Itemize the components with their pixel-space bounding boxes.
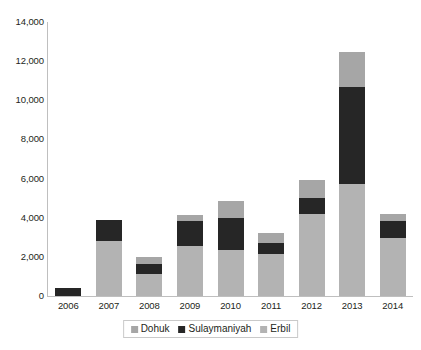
bar-group-2014[interactable] bbox=[380, 214, 406, 296]
bar-segment-sulaymaniyah-2014[interactable] bbox=[380, 221, 406, 239]
stacked-bar-chart: 02,0004,0006,0008,00010,00012,00014,000 … bbox=[0, 0, 421, 350]
legend-label: Sulaymaniyah bbox=[189, 323, 252, 335]
legend-swatch-icon bbox=[260, 326, 267, 333]
bar-segment-sulaymaniyah-2013[interactable] bbox=[339, 87, 365, 185]
y-axis-tick-label: 0 bbox=[0, 291, 44, 301]
chart-legend: DohukSulaymaniyahErbil bbox=[123, 320, 299, 338]
bar-segment-sulaymaniyah-2011[interactable] bbox=[258, 243, 284, 254]
x-axis-tick-label: 2008 bbox=[126, 299, 172, 312]
legend-item-erbil[interactable]: Erbil bbox=[260, 323, 290, 335]
legend-label: Dohuk bbox=[141, 323, 170, 335]
bar-segment-sulaymaniyah-2010[interactable] bbox=[218, 218, 244, 250]
bar-segment-dohuk-2013[interactable] bbox=[339, 52, 365, 86]
bar-segment-dohuk-2008[interactable] bbox=[136, 257, 162, 264]
x-axis-tick-label: 2010 bbox=[208, 299, 254, 312]
x-axis-tick-label: 2006 bbox=[45, 299, 91, 312]
y-axis-tick-label: 8,000 bbox=[0, 134, 44, 144]
bar-segment-dohuk-2014[interactable] bbox=[380, 214, 406, 221]
y-axis-tick-label: 10,000 bbox=[0, 95, 44, 105]
bar-group-2008[interactable] bbox=[136, 257, 162, 296]
legend-item-sulaymaniyah[interactable]: Sulaymaniyah bbox=[179, 323, 252, 335]
bar-segment-erbil-2008[interactable] bbox=[136, 274, 162, 297]
x-axis-tick-label: 2012 bbox=[289, 299, 335, 312]
bar-group-2012[interactable] bbox=[299, 180, 325, 296]
x-axis-tick-label: 2013 bbox=[329, 299, 375, 312]
bar-segment-erbil-2011[interactable] bbox=[258, 254, 284, 296]
x-axis-tick-label: 2014 bbox=[370, 299, 416, 312]
y-axis-tick-labels: 02,0004,0006,0008,00010,00012,00014,000 bbox=[0, 0, 44, 350]
bar-segment-dohuk-2011[interactable] bbox=[258, 233, 284, 243]
plot-area bbox=[48, 22, 413, 296]
x-axis-tick-label: 2007 bbox=[86, 299, 132, 312]
x-axis-line bbox=[47, 296, 413, 297]
bar-segment-erbil-2007[interactable] bbox=[96, 241, 122, 296]
legend-item-dohuk[interactable]: Dohuk bbox=[131, 323, 170, 335]
y-axis-tick-label: 12,000 bbox=[0, 56, 44, 66]
y-axis-tick-label: 14,000 bbox=[0, 17, 44, 27]
legend-label: Erbil bbox=[270, 323, 290, 335]
y-axis-tick-label: 6,000 bbox=[0, 174, 44, 184]
x-axis-tick-labels: 200620072008200920102011201220132014 bbox=[48, 299, 413, 315]
x-axis-tick-label: 2009 bbox=[167, 299, 213, 312]
bar-segment-sulaymaniyah-2008[interactable] bbox=[136, 264, 162, 274]
x-axis-tick-label: 2011 bbox=[248, 299, 294, 312]
bar-segment-sulaymaniyah-2012[interactable] bbox=[299, 198, 325, 214]
bar-group-2007[interactable] bbox=[96, 220, 122, 296]
bar-segment-erbil-2013[interactable] bbox=[339, 184, 365, 296]
bar-segment-erbil-2012[interactable] bbox=[299, 214, 325, 296]
bar-segment-erbil-2009[interactable] bbox=[177, 246, 203, 296]
bar-group-2006[interactable] bbox=[55, 288, 81, 296]
y-axis-tick-label: 2,000 bbox=[0, 252, 44, 262]
y-axis-tick-label: 4,000 bbox=[0, 213, 44, 223]
legend-swatch-icon bbox=[131, 326, 138, 333]
bar-group-2011[interactable] bbox=[258, 233, 284, 296]
legend-swatch-icon bbox=[179, 326, 186, 333]
bar-segment-sulaymaniyah-2006[interactable] bbox=[55, 288, 81, 296]
bar-group-2013[interactable] bbox=[339, 52, 365, 296]
bar-segment-erbil-2014[interactable] bbox=[380, 238, 406, 296]
bar-segment-dohuk-2010[interactable] bbox=[218, 201, 244, 218]
bar-group-2009[interactable] bbox=[177, 215, 203, 296]
bar-segment-erbil-2010[interactable] bbox=[218, 250, 244, 296]
bar-segment-dohuk-2012[interactable] bbox=[299, 180, 325, 199]
bar-segment-sulaymaniyah-2007[interactable] bbox=[96, 220, 122, 242]
bar-segment-sulaymaniyah-2009[interactable] bbox=[177, 221, 203, 246]
bar-group-2010[interactable] bbox=[218, 201, 244, 296]
